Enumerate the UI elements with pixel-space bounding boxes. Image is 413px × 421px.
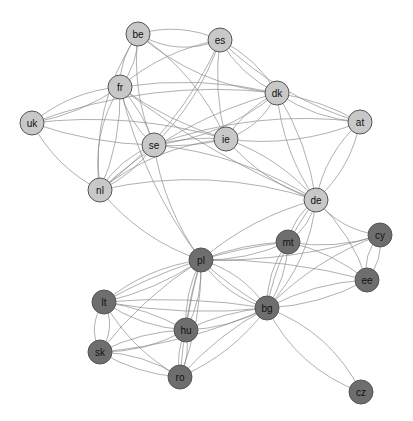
edge-bg-cz [267,308,361,392]
edge-ro-bg [180,308,267,377]
node-label: se [149,140,160,151]
node-es[interactable]: es [208,28,232,52]
edge-fr-uk [32,87,120,123]
node-hu[interactable]: hu [174,318,198,342]
node-label: hu [180,325,191,336]
edge-ie-de [226,139,316,200]
node-ro[interactable]: ro [168,365,192,389]
node-dk[interactable]: dk [265,81,289,105]
edge-lt-hu [104,302,186,330]
edge-ro-bg [180,308,267,377]
node-mt[interactable]: mt [276,230,300,254]
node-label: mt [282,237,293,248]
node-label: de [310,195,322,206]
edge-fr-ie [120,87,226,139]
edge-se-de [154,145,316,200]
edge-hu-sk [100,330,186,352]
node-label: cy [375,230,385,241]
edge-uk-se [32,123,154,145]
edge-es-fr [120,40,220,87]
network-graph: beesfrukseiedkatnldeplmtcyeelthubgskrocz [0,0,413,421]
node-lt[interactable]: lt [92,290,116,314]
node-be[interactable]: be [126,22,150,46]
node-de[interactable]: de [304,188,328,212]
node-label: fr [117,82,124,93]
node-label: ie [222,134,230,145]
edge-fr-pl [120,87,201,260]
node-label: lt [102,297,107,308]
node-fr[interactable]: fr [108,75,132,99]
edge-nl-pl [100,190,201,260]
node-label: be [132,29,144,40]
node-label: nl [96,185,104,196]
edge-mt-cy [288,235,380,245]
node-label: cz [356,387,366,398]
edge-sk-ro [100,352,180,377]
node-label: uk [27,118,39,129]
edge-dk-de [277,93,316,200]
edge-at-de [316,122,360,200]
node-label: at [356,117,365,128]
edge-nl-de [100,180,316,200]
edge-be-nl [98,34,138,190]
node-layer: beesfrukseiedkatnldeplmtcyeelthubgskrocz [20,22,392,404]
edge-lt-ro [104,302,180,377]
edge-de-pl [201,200,316,260]
node-label: pl [197,255,205,266]
node-label: bg [261,303,272,314]
node-ee[interactable]: ee [355,268,379,292]
node-ie[interactable]: ie [214,127,238,151]
edge-hu-sk [100,330,186,352]
node-sk[interactable]: sk [88,340,112,364]
node-label: dk [272,88,284,99]
edge-lt-hu [104,302,186,330]
node-nl[interactable]: nl [88,178,112,202]
edge-mt-ee [288,242,367,280]
edge-bg-cz [267,308,361,392]
node-label: ee [361,275,373,286]
edge-ie-at [226,122,360,141]
node-uk[interactable]: uk [20,111,44,135]
edge-fr-uk [32,87,120,123]
node-cy[interactable]: cy [368,223,392,247]
edge-ie-de [226,139,316,200]
node-at[interactable]: at [348,110,372,134]
edge-layer [32,29,381,392]
node-cz[interactable]: cz [349,380,373,404]
node-se[interactable]: se [142,133,166,157]
edge-at-de [316,122,360,200]
edge-dk-de [277,93,316,200]
edge-sk-ro [100,352,180,377]
edge-de-ee [316,200,367,280]
node-pl[interactable]: pl [189,248,213,272]
node-label: ro [176,372,185,383]
node-label: sk [95,347,106,358]
node-bg[interactable]: bg [255,296,279,320]
edge-be-se [136,34,154,145]
node-label: es [215,35,226,46]
edge-se-pl [154,145,201,260]
